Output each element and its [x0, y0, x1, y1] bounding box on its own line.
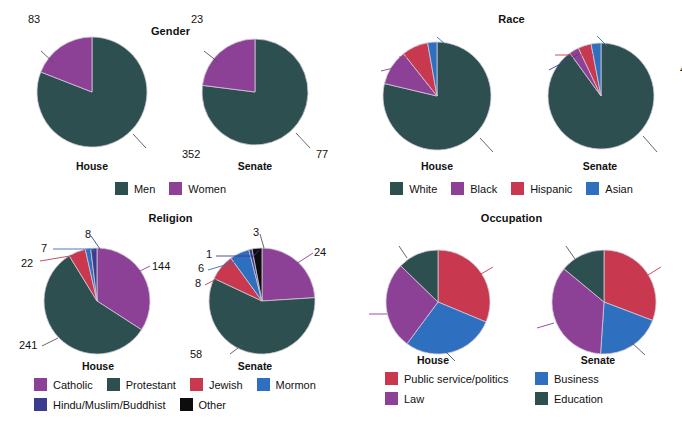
legend-row: Hindu/Muslim/Buddhist Other	[34, 398, 334, 411]
legend-label-hindu-muslim-buddhist: Hindu/Muslim/Buddhist	[53, 399, 166, 411]
chamber-label-occupation-house: House	[403, 354, 463, 366]
chamber-label-religion-senate: Senate	[224, 360, 286, 372]
legend-item-black[interactable]: Black	[451, 182, 497, 195]
leader-catholic-24	[296, 253, 313, 264]
callout-religion-senate-protestant: 58	[190, 348, 202, 360]
legend-label-catholic: Catholic	[53, 379, 93, 391]
pie-occupation-house	[341, 230, 521, 365]
callout-religion-senate-catholic: 24	[314, 246, 326, 258]
legend-item-law[interactable]: Law	[385, 392, 535, 405]
legend-swatch-public-service-politics	[385, 372, 398, 385]
callout-religion-house-hmb: 8	[85, 228, 91, 240]
callout-religion-house-catholic: 144	[152, 260, 170, 272]
pie-svg-gender-house	[0, 30, 170, 160]
legend-label-other: Other	[199, 399, 227, 411]
panel-title-race: Race	[341, 13, 682, 25]
chamber-label-gender-senate: Senate	[224, 160, 286, 172]
legend-label-men: Men	[134, 183, 155, 195]
callout-religion-house-mormon: 7	[41, 242, 47, 254]
legend-swatch-black	[451, 182, 464, 195]
legend-item-jewish[interactable]: Jewish	[190, 378, 243, 391]
pie-gender-house	[0, 30, 170, 160]
panel-gender: Gender 83 352 House 23 77 Se	[0, 0, 341, 208]
chamber-label-race-senate: Senate	[569, 160, 631, 172]
congress-composition-figure: Gender 83 352 House 23 77 Se	[0, 0, 682, 432]
legend-label-jewish: Jewish	[209, 379, 243, 391]
legend-swatch-mormon	[257, 378, 270, 391]
leader-77	[296, 133, 310, 148]
legend-label-business: Business	[554, 373, 599, 385]
pie-svg-occupation-house	[341, 230, 521, 365]
legend-item-white[interactable]: White	[390, 182, 437, 195]
pie-svg-race-house	[341, 28, 521, 163]
pie-race-house	[341, 28, 521, 163]
callout-gender-senate-women: 23	[191, 13, 203, 25]
panel-religion: Religion 8 7	[0, 208, 341, 432]
panel-occupation: Occupation 79 194 168 179 Hous	[341, 208, 682, 432]
legend-label-law: Law	[404, 393, 424, 405]
pie-svg-gender-senate	[170, 30, 340, 160]
leader-other-3	[260, 234, 264, 248]
leader-hmb-8	[91, 236, 100, 249]
legend-item-hindu-muslim-buddhist[interactable]: Hindu/Muslim/Buddhist	[34, 398, 166, 411]
chamber-label-race-house: House	[407, 160, 467, 172]
legend-label-protestant: Protestant	[126, 379, 176, 391]
leader-business-29	[631, 342, 645, 355]
legend-item-hispanic[interactable]: Hispanic	[511, 182, 572, 195]
pie-gender-senate	[170, 30, 340, 160]
callout-religion-house-protestant: 241	[19, 339, 37, 351]
legend-swatch-other	[180, 398, 193, 411]
legend-item-men[interactable]: Men	[115, 182, 155, 195]
legend-swatch-hindu-muslim-buddhist	[34, 398, 47, 411]
legend-row: Catholic Protestant Jewish Mormon	[34, 378, 334, 391]
legend-label-women: Women	[188, 183, 226, 195]
legend-row: Public service/politics Business	[385, 372, 675, 385]
legend-item-catholic[interactable]: Catholic	[34, 378, 93, 391]
legend-label-white: White	[409, 183, 437, 195]
callout-religion-senate-jewish: 8	[195, 277, 201, 289]
legend-row: White Black Hispanic Asian	[341, 182, 682, 195]
chamber-label-gender-house: House	[62, 160, 122, 172]
legend-race: White Black Hispanic Asian	[341, 182, 682, 195]
chamber-label-religion-house: House	[68, 360, 128, 372]
legend-swatch-law	[385, 392, 398, 405]
legend-item-mormon[interactable]: Mormon	[257, 378, 316, 391]
callout-gender-senate-men: 77	[316, 148, 328, 160]
legend-label-mormon: Mormon	[276, 379, 316, 391]
chamber-label-occupation-senate: Senate	[567, 354, 629, 366]
legend-label-hispanic: Hispanic	[530, 183, 572, 195]
legend-swatch-catholic	[34, 378, 47, 391]
legend-item-protestant[interactable]: Protestant	[107, 378, 176, 391]
leader-white-340	[480, 138, 493, 152]
legend-occupation: Public service/politics Business Law Edu…	[385, 372, 675, 405]
legend-item-public-service-politics[interactable]: Public service/politics	[385, 372, 535, 385]
legend-item-other[interactable]: Other	[180, 398, 227, 411]
legend-label-public-service-politics: Public service/politics	[404, 373, 509, 385]
panel-title-religion: Religion	[0, 212, 341, 224]
legend-swatch-jewish	[190, 378, 203, 391]
legend-label-asian: Asian	[605, 183, 633, 195]
callout-religion-senate-other: 3	[253, 226, 259, 238]
leader-public-44	[648, 267, 661, 275]
legend-swatch-women	[169, 182, 182, 195]
callout-religion-house-jewish: 22	[21, 257, 33, 269]
legend-swatch-education	[535, 392, 548, 405]
legend-item-education[interactable]: Education	[535, 392, 603, 405]
leader-white-90	[643, 136, 657, 152]
legend-row: Law Education	[385, 392, 675, 405]
pie-svg-occupation-senate	[521, 230, 682, 365]
legend-item-business[interactable]: Business	[535, 372, 599, 385]
pie-occupation-senate	[521, 230, 682, 365]
legend-item-asian[interactable]: Asian	[586, 182, 633, 195]
legend-label-black: Black	[470, 183, 497, 195]
callout-gender-house-women: 83	[28, 13, 40, 25]
leader-352	[133, 134, 146, 148]
pie-svg-race-senate	[521, 28, 682, 163]
legend-religion: Catholic Protestant Jewish Mormon	[34, 378, 334, 411]
legend-label-education: Education	[554, 393, 603, 405]
leader-education-79	[399, 246, 407, 258]
leader-law-50	[537, 323, 554, 328]
legend-item-women[interactable]: Women	[169, 182, 226, 195]
panel-title-occupation: Occupation	[341, 212, 682, 224]
leader-education-20	[566, 246, 575, 259]
